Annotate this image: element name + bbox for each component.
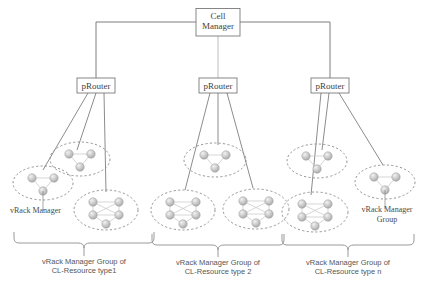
- group-3-caption-line1: vRack Manager Group of: [278, 258, 418, 267]
- cell-manager-box[interactable]: [196, 9, 240, 37]
- prouter-2-box[interactable]: [199, 78, 237, 93]
- link-p2-c3: [227, 93, 253, 188]
- node-ball: [239, 197, 247, 205]
- group-2-caption: vRack Manager Group of CL-Resource type …: [148, 258, 288, 276]
- vrack-manager-group-annotation-line1: vRack Manager: [350, 205, 424, 215]
- group-1-caption: vRack Manager Group of CL-Resource type1: [14, 257, 154, 275]
- node-ball: [115, 198, 123, 206]
- group-3-caption-line2: CL-Resource type n: [278, 267, 418, 276]
- node-ball: [65, 150, 73, 158]
- node-ball: [298, 200, 306, 208]
- node-boxes: [77, 9, 349, 94]
- node-ball: [313, 165, 321, 173]
- node-ball: [252, 219, 260, 227]
- network-architecture-diagram: Cell Manager pRouter pRouter pRouter vRa…: [0, 0, 426, 287]
- node-ball: [392, 173, 400, 181]
- prouter-fanout-links: [43, 93, 383, 195]
- diagram-canvas: [0, 0, 426, 287]
- link-p3-c3: [339, 93, 383, 165]
- node-ball: [311, 222, 319, 230]
- node-ball: [265, 210, 273, 218]
- link-p3-c2: [322, 93, 329, 150]
- node-ball: [239, 210, 247, 218]
- node-ball: [265, 197, 273, 205]
- node-ball: [324, 152, 332, 160]
- prouter-3-box[interactable]: [311, 78, 349, 93]
- node-ball: [370, 173, 378, 181]
- brace-group-1: [14, 232, 154, 248]
- link-p1-c3: [104, 93, 106, 192]
- node-ball: [179, 220, 187, 228]
- vrack-manager-group-annotation: vRack Manager Group: [350, 205, 424, 224]
- prouter-1-box[interactable]: [77, 78, 115, 93]
- vrack-manager-annotation: vRack Manager: [10, 206, 61, 216]
- node-ball: [89, 211, 97, 219]
- node-ball: [166, 198, 174, 206]
- node-ball: [222, 151, 230, 159]
- group-2-caption-line1: vRack Manager Group of: [148, 258, 288, 267]
- group-1-caption-line1: vRack Manager Group of: [14, 257, 154, 266]
- vrack-manager-group-annotation-line2: Group: [350, 215, 424, 225]
- node-ball: [115, 211, 123, 219]
- node-ball: [192, 211, 200, 219]
- node-ball: [76, 163, 84, 171]
- link-p1-c2: [77, 93, 96, 150]
- node-ball: [192, 198, 200, 206]
- link-p2-c1: [185, 93, 210, 190]
- node-ball: [324, 213, 332, 221]
- node-ball: [298, 213, 306, 221]
- group-1-caption-line2: CL-Resource type1: [14, 266, 154, 275]
- node-ball: [50, 174, 58, 182]
- node-ball: [211, 164, 219, 172]
- node-ball: [89, 198, 97, 206]
- group-3-caption: vRack Manager Group of CL-Resource type …: [278, 258, 418, 276]
- node-ball: [200, 151, 208, 159]
- node-ball: [166, 211, 174, 219]
- group-2-caption-line2: CL-Resource type 2: [148, 267, 288, 276]
- node-ball: [324, 200, 332, 208]
- brace-group-2: [152, 234, 284, 250]
- cluster-nodes: [28, 150, 400, 230]
- brace-group-3: [282, 234, 414, 250]
- node-ball: [302, 152, 310, 160]
- node-ball: [102, 220, 110, 228]
- node-ball: [28, 174, 36, 182]
- group-braces: [14, 232, 414, 257]
- node-ball: [87, 150, 95, 158]
